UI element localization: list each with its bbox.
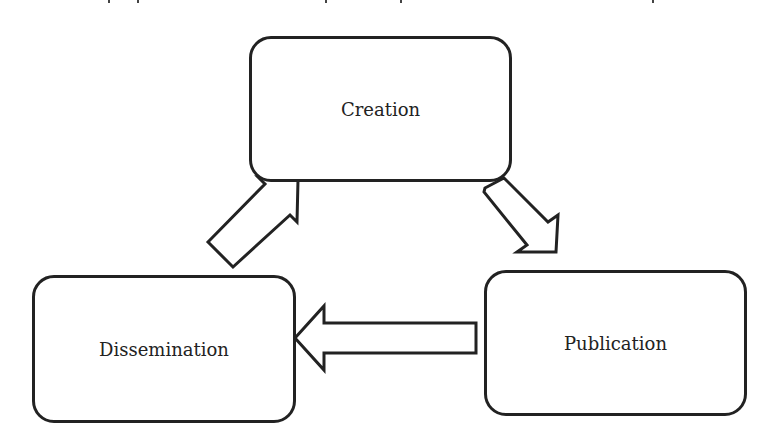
arrow-creation-to-publication [484,178,558,252]
arrow-dissemination-to-creation [208,177,298,267]
node-dissemination: Dissemination [32,275,296,423]
arrow-publication-to-dissemination [295,306,476,370]
cycle-diagram: Creation Publication Dissemination [0,0,772,445]
node-creation: Creation [249,36,512,182]
node-label-publication: Publication [564,333,667,354]
node-publication: Publication [484,270,747,416]
node-label-creation: Creation [341,99,420,120]
node-label-dissemination: Dissemination [99,339,229,360]
